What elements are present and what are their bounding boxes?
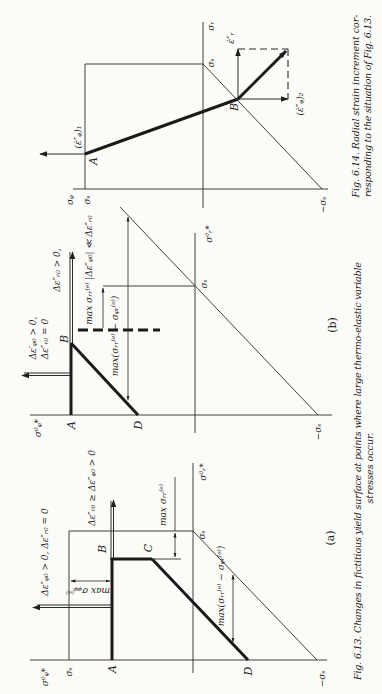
caption-6-14-line1: Fig. 6.14. Radial strain increment cor- [350, 15, 361, 199]
label-sigma-phi-axis: σᵩ [65, 195, 75, 205]
label-point-a: A [106, 665, 119, 674]
label-sigma-r-star: σ⁰ᵣ* [198, 463, 208, 481]
label-sigma-phi-star: σ⁰ᵩ* [33, 418, 43, 437]
yield-boundary-diagonal [193, 531, 317, 660]
label-strain-rate-phi-1: (ε̇″ᵩ)₁ [73, 126, 83, 149]
figures-canvas: σᵣ σₛ ε̇″ᵣ B (ε̇″ᵩ)₂ (ε̇″ᵩ)₁ A σᵩ σₛ −σₛ… [0, 0, 382, 694]
panel-label-b: (b) [326, 317, 339, 333]
label-point-b: B [58, 335, 71, 344]
label-point-d: D [132, 420, 145, 430]
figure-6-13-panel-b: σ⁰ᵩ* A D −σₛ σₛ σ⁰ᵣ* (b) B Δε′ᵩ₀ > 0, Δε… [22, 207, 339, 440]
label-sigma-phi-star: σ⁰ᵩ* [40, 667, 50, 686]
label-cond-phi: Δε′ᵩ₀ > 0, [28, 316, 38, 360]
label-sigma-r-star: σ⁰ᵣ* [204, 225, 214, 243]
label-max-diff: max(σᵣᵣ⁽ᵉ⁾ − σᵩᵣ⁽ᵉ⁾) [110, 295, 120, 376]
label-point-b: B [228, 103, 241, 112]
label-strain-rate-r: ε̇″ᵣ [226, 32, 236, 43]
book-page: σᵣ σₛ ε̇″ᵣ B (ε̇″ᵩ)₂ (ε̇″ᵩ)₁ A σᵩ σₛ −σₛ… [0, 0, 382, 694]
label-strain-rate-phi-2: (ε̇″ᵩ)₂ [295, 92, 305, 115]
label-point-b: B [96, 545, 109, 554]
figure-6-14: σᵣ σₛ ε̇″ᵣ B (ε̇″ᵩ)₂ (ε̇″ᵩ)₁ A σᵩ σₛ −σₛ… [40, 15, 373, 214]
label-sigma-r-axis: σᵣ [206, 21, 216, 30]
resultant-strain-arrow [238, 51, 286, 99]
label-cond-phi-r: Δε″ᵩ₀ > 0, Δε″ᵣ₀ = 0 [40, 508, 50, 597]
yield-boundary-diagonal [120, 207, 318, 415]
caption-6-13-line2: stresses occur. [364, 432, 375, 503]
label-sigma-s-left: σₛ [64, 667, 74, 676]
label-neg-sigma-s: −σₛ [318, 197, 328, 214]
figure-6-13-panel-a: σ⁰ᵩ* σₛ A D −σₛ σₛ σ⁰ᵣ* (a) B C Δε″ᵩ₀ > … [30, 450, 337, 688]
label-max-rr-note: max σᵣᵣ⁽ᵉ⁾ |Δε″ᵩ₀| ≪ Δε″ᵣ₀ [84, 215, 95, 325]
caption-6-14-line2: responding to the situation of Fig. 6.13… [362, 15, 373, 197]
panel-label-a: (a) [324, 530, 337, 545]
label-max-diff: max(σᵣᵣ⁽ᵉ⁾ − σᵩᵣ⁽ᵉ⁾) [216, 545, 226, 626]
label-point-c: C [142, 543, 155, 552]
label-point-a: A [87, 157, 100, 166]
label-sigma-s: σₛ [199, 279, 209, 288]
label-cond-r-pos: Δε″ᵣ₀ > 0, [52, 248, 62, 292]
stress-path-a-b [85, 99, 238, 154]
label-cond-r-ge-phi: Δε″ᵣ₀ ≥ Δε″ᵩ₀ > 0 [87, 450, 97, 527]
stress-path-c-d [152, 559, 248, 660]
label-sigma-s-top: σₛ [206, 58, 216, 67]
label-sigma-s-axis: σₛ [197, 530, 207, 539]
label-max-rr: max σᵣᵣ⁽ᵉ⁾ [158, 484, 168, 526]
label-point-d: D [242, 666, 255, 676]
label-max-phiphi: max σᵩᵩ⁽ᵉ⁾ [66, 586, 110, 596]
label-cond-r-zero: Δε″ᵣ₀ = 0 [40, 319, 50, 361]
label-neg-sigma-s: −σₛ [313, 424, 323, 441]
label-neg-sigma-s: −σₛ [317, 671, 327, 688]
label-sigma-s-left: σₛ [82, 195, 92, 204]
caption-6-13-line1: Fig. 6.13. Changes in fictitious yield s… [352, 262, 363, 681]
label-point-a: A [65, 421, 78, 430]
yield-boundary-diagonal [203, 64, 322, 189]
